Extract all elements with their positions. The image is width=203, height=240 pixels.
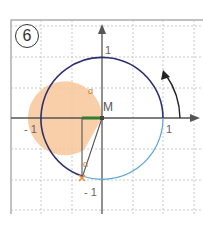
x-axis-label-neg: - 1: [24, 123, 37, 135]
center-point: [100, 116, 104, 120]
y-axis-label-pos: 1: [105, 44, 111, 56]
figure-number-badge: 6: [15, 24, 39, 48]
x-axis-label-pos: 1: [166, 123, 172, 135]
angle-label: α: [88, 86, 93, 96]
y-axis-label-neg: - 1: [84, 186, 97, 198]
center-label: M: [103, 100, 113, 114]
angle-label-small: α: [83, 159, 88, 169]
